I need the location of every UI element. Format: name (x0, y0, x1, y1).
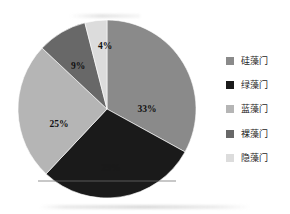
pie-chart-figure: 33% 29% 25% 9% 4% 硅藻门 绿藻门 蓝藻门 裸藻门 隐藻门 (0, 0, 290, 214)
legend-item-yinzaomen[interactable]: 隐藻门 (226, 152, 269, 164)
legend-label-lvzaomen: 绿藻门 (241, 79, 269, 91)
legend-item-lvzaomen[interactable]: 绿藻门 (226, 79, 269, 91)
pie-svg: 33% 29% 25% 9% 4% (16, 18, 198, 200)
legend-label-luozaomen: 裸藻门 (241, 128, 269, 140)
legend-swatch-yinzaomen (226, 154, 234, 162)
legend-item-luozaomen[interactable]: 裸藻门 (226, 128, 269, 140)
legend-label-guizaomen: 硅藻门 (241, 55, 269, 67)
legend-item-guizaomen[interactable]: 硅藻门 (226, 55, 269, 67)
chart-legend: 硅藻门 绿藻门 蓝藻门 裸藻门 隐藻门 (226, 55, 288, 170)
legend-item-lanzaomen[interactable]: 蓝藻门 (226, 103, 269, 115)
pie-label-lanzaomen: 25% (50, 119, 69, 129)
bottom-scan-artifact (40, 205, 250, 209)
legend-swatch-guizaomen (226, 57, 234, 65)
pie-label-luozaomen: 9% (71, 61, 85, 71)
pie-label-guizaomen: 33% (138, 104, 157, 114)
legend-swatch-lvzaomen (226, 81, 234, 89)
pie-label-lvzaomen: 29% (102, 163, 121, 173)
legend-label-lanzaomen: 蓝藻门 (241, 103, 269, 115)
pie-label-yinzaomen: 4% (98, 41, 112, 51)
legend-swatch-lanzaomen (226, 105, 234, 113)
legend-label-yinzaomen: 隐藻门 (241, 152, 269, 164)
pie-plot-area: 33% 29% 25% 9% 4% (16, 18, 198, 200)
legend-swatch-luozaomen (226, 130, 234, 138)
